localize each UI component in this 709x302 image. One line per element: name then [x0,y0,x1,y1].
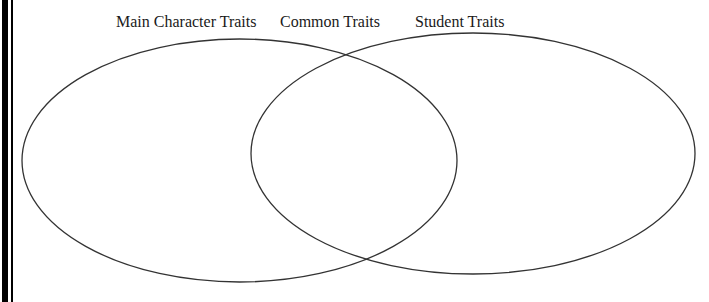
venn-circle-main-character [22,39,457,282]
venn-diagram [0,0,709,302]
venn-circle-student [251,33,695,274]
